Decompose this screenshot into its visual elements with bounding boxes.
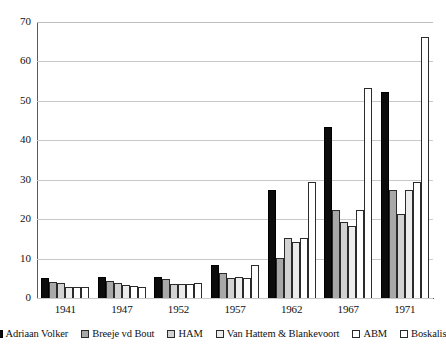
legend-label: ABM	[363, 328, 387, 340]
bar[interactable]	[211, 265, 219, 298]
legend-label: Boskalis	[411, 328, 446, 340]
bar-group-1952	[150, 22, 207, 298]
y-tick-label-60: 60	[2, 55, 31, 66]
bar[interactable]	[81, 287, 89, 298]
bar[interactable]	[65, 287, 73, 298]
plot-area	[37, 22, 433, 298]
bar[interactable]	[292, 242, 300, 298]
bar[interactable]	[348, 226, 356, 298]
bar[interactable]	[276, 258, 284, 298]
x-axis-line	[37, 298, 434, 299]
bar[interactable]	[235, 277, 243, 298]
bar-groups	[37, 22, 433, 298]
bar[interactable]	[186, 284, 194, 298]
legend-swatch-icon	[400, 330, 408, 338]
bar[interactable]	[421, 37, 429, 298]
bar[interactable]	[308, 182, 316, 298]
bar[interactable]	[194, 283, 202, 298]
legend-swatch-icon	[81, 330, 89, 338]
bar[interactable]	[405, 190, 413, 298]
x-tick-label-1952: 1952	[150, 302, 207, 318]
legend-swatch-icon	[0, 330, 3, 338]
bar[interactable]	[57, 283, 65, 298]
bar-group-1971	[376, 22, 433, 298]
bar[interactable]	[243, 278, 251, 298]
bar[interactable]	[114, 283, 122, 298]
bar-group-1947	[94, 22, 151, 298]
bar[interactable]	[340, 222, 348, 298]
legend-item[interactable]: Van Hattem & Blankevoort	[216, 328, 340, 340]
bar[interactable]	[106, 281, 114, 298]
bar[interactable]	[178, 284, 186, 298]
bar[interactable]	[219, 273, 227, 298]
bar[interactable]	[138, 287, 146, 298]
y-tick-label-30: 30	[2, 174, 31, 185]
bar[interactable]	[300, 238, 308, 298]
bar-group-1957	[207, 22, 264, 298]
bar[interactable]	[389, 190, 397, 298]
bar[interactable]	[130, 286, 138, 298]
bar[interactable]	[413, 182, 421, 298]
bar[interactable]	[41, 278, 49, 299]
bar[interactable]	[122, 285, 130, 298]
x-tick-label-1947: 1947	[94, 302, 151, 318]
legend-label: HAM	[178, 328, 202, 340]
legend-label: Van Hattem & Blankevoort	[227, 328, 340, 340]
y-tick-label-0: 0	[2, 292, 31, 303]
y-tick-label-50: 50	[2, 95, 31, 106]
bar-group-1941	[37, 22, 94, 298]
chart-legend: Adriaan VolkerBreeje vd BoutHAMVan Hatte…	[0, 325, 441, 343]
x-tick-label-1967: 1967	[320, 302, 377, 318]
bar[interactable]	[324, 127, 332, 298]
legend-label: Adriaan Volker	[6, 328, 69, 340]
bar[interactable]	[73, 287, 81, 298]
bar[interactable]	[154, 277, 162, 298]
bar[interactable]	[397, 214, 405, 298]
bar[interactable]	[356, 210, 364, 298]
x-tick-label-1962: 1962	[263, 302, 320, 318]
bar[interactable]	[251, 265, 259, 298]
bar[interactable]	[364, 88, 372, 298]
y-tick-label-20: 20	[2, 213, 31, 224]
bar[interactable]	[381, 92, 389, 298]
legend-label: Breeje vd Bout	[92, 328, 154, 340]
legend-item[interactable]: ABM	[352, 328, 387, 340]
y-tick-label-40: 40	[2, 134, 31, 145]
bar[interactable]	[268, 190, 276, 298]
legend-swatch-icon	[216, 330, 224, 338]
legend-item[interactable]: Adriaan Volker	[0, 328, 68, 340]
legend-swatch-icon	[167, 330, 175, 338]
bar[interactable]	[284, 238, 292, 298]
legend-item[interactable]: HAM	[167, 328, 202, 340]
bar[interactable]	[162, 279, 170, 298]
y-tick-label-10: 10	[2, 253, 31, 264]
x-tick-label-1971: 1971	[376, 302, 433, 318]
bar[interactable]	[49, 282, 57, 298]
bar[interactable]	[332, 210, 340, 298]
bar[interactable]	[170, 284, 178, 298]
bar[interactable]	[98, 277, 106, 298]
legend-item[interactable]: Boskalis	[400, 328, 446, 340]
legend-item[interactable]: Breeje vd Bout	[81, 328, 154, 340]
bar-group-1962	[263, 22, 320, 298]
x-tick-label-1941: 1941	[37, 302, 94, 318]
legend-swatch-icon	[352, 330, 360, 338]
y-tick-label-70: 70	[2, 16, 31, 27]
bar-group-1967	[320, 22, 377, 298]
x-axis-tick-labels: 1941194719521957196219671971	[37, 302, 433, 318]
x-tick-label-1957: 1957	[207, 302, 264, 318]
bar[interactable]	[227, 278, 235, 298]
